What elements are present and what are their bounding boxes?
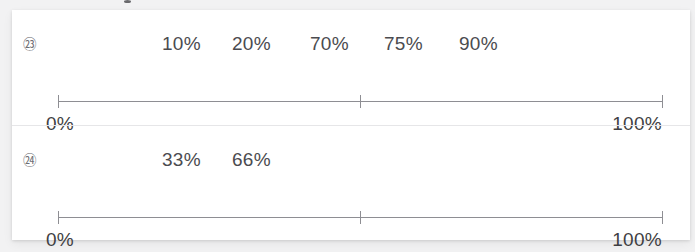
worksheet-sheet: ㉓ 10% 20% 70% 75% 90% 0% 100% ㉔ 33% xyxy=(12,10,690,240)
number-line[interactable]: 0% 100% xyxy=(46,88,666,124)
exercise-row: ㉔ 33% 66% 0% 100% xyxy=(12,125,690,241)
item-number-badge: ㉓ xyxy=(18,34,40,56)
tick-start xyxy=(58,95,59,108)
tick-middle xyxy=(360,211,361,224)
number-line[interactable]: 0% 100% xyxy=(46,204,666,240)
number-line-start-label: 0% xyxy=(46,228,74,252)
tick-end xyxy=(662,95,663,108)
value-chip[interactable]: 70% xyxy=(310,31,349,57)
item-number-badge: ㉔ xyxy=(18,150,40,172)
worksheet-page: ㉓ 10% 20% 70% 75% 90% 0% 100% ㉔ 33% xyxy=(0,0,695,252)
value-chip[interactable]: 66% xyxy=(232,147,271,173)
number-line-end-label: 100% xyxy=(612,228,662,252)
value-chip[interactable]: 90% xyxy=(459,31,498,57)
value-chip[interactable]: 75% xyxy=(384,31,423,57)
clipped-content-fragment xyxy=(124,0,131,3)
tick-end xyxy=(662,211,663,224)
value-chip[interactable]: 33% xyxy=(162,147,201,173)
exercise-row: ㉓ 10% 20% 70% 75% 90% 0% 100% xyxy=(12,10,690,125)
tick-start xyxy=(58,211,59,224)
tick-middle xyxy=(360,95,361,108)
value-chip[interactable]: 10% xyxy=(162,31,201,57)
value-chip[interactable]: 20% xyxy=(232,31,271,57)
